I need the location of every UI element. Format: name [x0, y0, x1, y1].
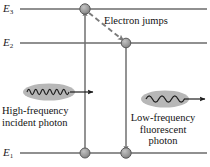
level-label-e1-letter: E — [3, 146, 10, 158]
level-label-e2-letter: E — [3, 36, 10, 48]
dot-e3 — [80, 4, 90, 14]
level-label-e1: E1 — [3, 147, 13, 158]
dot-e1-right — [121, 148, 131, 158]
dot-e2 — [121, 38, 131, 48]
level-label-e3-subscript: 3 — [10, 8, 14, 16]
incident-photon-caption-line-2: incident photon — [2, 117, 68, 129]
fluorescent-photon-caption-line-2: fluorescent — [118, 124, 208, 136]
energy-level-diagram: E3 E2 E1 Electron jumps High-frequency i… — [0, 0, 210, 167]
fluorescent-photon-caption-line-1: Low-frequency — [118, 112, 208, 124]
incident-photon-caption: High-frequency incident photon — [2, 105, 68, 128]
electron-jumps-annotation: Electron jumps — [104, 15, 168, 27]
incident-photon-caption-line-1: High-frequency — [2, 105, 68, 117]
fluorescent-photon-caption-line-3: photon — [118, 135, 208, 147]
low-frequency-fluorescent-photon — [141, 90, 205, 107]
level-label-e1-subscript: 1 — [10, 152, 14, 160]
fluorescent-photon-caption: Low-frequency fluorescent photon — [118, 112, 208, 147]
dot-e1-left — [80, 148, 90, 158]
level-label-e2-subscript: 2 — [10, 42, 14, 50]
level-label-e2: E2 — [3, 37, 13, 48]
level-label-e3-letter: E — [3, 2, 10, 14]
level-label-e3: E3 — [3, 3, 13, 14]
high-frequency-incident-photon — [23, 83, 93, 100]
